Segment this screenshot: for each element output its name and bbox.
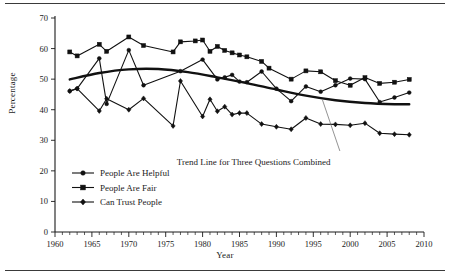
data-point-marker [127, 35, 131, 39]
data-point-marker [230, 73, 234, 77]
y-tick-label: 40 [40, 105, 49, 115]
data-point-marker [127, 48, 131, 52]
legend-item-2[interactable]: People Are Fair [72, 183, 157, 193]
data-point-marker [407, 91, 411, 95]
y-tick-label: 20 [40, 166, 49, 176]
legend-item-label: People Are Fair [100, 183, 157, 193]
x-axis-title: Year [0, 250, 450, 260]
x-tick-label: 1965 [83, 239, 100, 249]
trend-annotation-label: Trend Line for Three Questions Combined [177, 157, 331, 167]
data-point-marker [319, 90, 323, 94]
y-tick-label: 70 [40, 13, 49, 23]
x-tick-label: 1960 [47, 239, 64, 249]
data-point-marker [393, 96, 397, 100]
x-tick-label: 1995 [305, 239, 322, 249]
legend-item-label: Can Trust People [100, 197, 162, 207]
data-point-marker [304, 85, 308, 89]
x-tick-label: 1975 [157, 239, 174, 249]
data-point-marker [105, 49, 109, 53]
y-tick-label: 10 [40, 196, 49, 206]
data-point-marker [81, 171, 86, 176]
trend-line [70, 69, 409, 105]
trend-line-group [70, 69, 409, 105]
x-tick-label: 1985 [231, 239, 248, 249]
y-tick-label: 60 [40, 44, 49, 54]
x-tick-label: 1980 [194, 239, 211, 249]
series-line [70, 37, 409, 85]
data-point-marker [274, 124, 278, 129]
data-point-marker [333, 79, 337, 83]
data-point-marker [260, 59, 264, 63]
data-point-marker [215, 44, 219, 48]
data-point-marker [105, 102, 109, 106]
legend-item-label: People Are Helpful [100, 168, 170, 178]
figure-container: 010203040506070 196019651970197519801985… [0, 0, 450, 278]
data-point-marker [304, 69, 308, 73]
x-axis: 1960196519701975198019851990199520002005… [47, 232, 433, 249]
y-axis-title: Percentage [7, 58, 17, 128]
data-point-marker [289, 99, 293, 103]
data-point-marker [334, 83, 338, 87]
legend-item-1[interactable]: People Are Helpful [72, 168, 170, 178]
data-point-marker [81, 185, 86, 190]
series-line [70, 81, 409, 135]
data-series-group [68, 35, 412, 137]
trend-annotation-group: Trend Line for Three Questions Combined [177, 99, 340, 167]
data-point-marker [289, 77, 293, 81]
y-tick-label: 30 [40, 135, 49, 145]
data-point-marker [348, 77, 352, 81]
data-point-marker [68, 50, 72, 54]
data-point-marker [237, 111, 241, 116]
data-point-marker [378, 131, 382, 136]
data-point-marker [378, 81, 382, 85]
data-point-marker [407, 132, 411, 137]
data-point-marker [75, 54, 79, 58]
data-point-marker [201, 38, 205, 42]
data-point-marker [348, 123, 352, 128]
data-point-marker [348, 83, 352, 87]
data-point-marker [201, 58, 205, 62]
data-point-marker [245, 55, 249, 59]
data-point-marker [319, 70, 323, 74]
data-point-marker [363, 121, 367, 126]
legend-item-3[interactable]: Can Trust People [72, 197, 162, 207]
x-tick-label: 2005 [379, 239, 396, 249]
data-point-marker [363, 76, 367, 80]
data-point-marker [230, 51, 234, 55]
data-point-marker [392, 132, 396, 137]
data-point-marker [193, 39, 197, 43]
x-tick-label: 1970 [120, 239, 137, 249]
data-point-marker [319, 122, 323, 127]
data-point-marker [407, 77, 411, 81]
data-point-marker [333, 122, 337, 127]
data-point-marker [178, 40, 182, 44]
data-point-marker [80, 199, 85, 205]
y-tick-label: 50 [40, 74, 49, 84]
series-line [70, 50, 409, 104]
data-point-marker [267, 66, 271, 70]
line-chart: 010203040506070 196019651970197519801985… [0, 0, 450, 278]
data-point-marker [238, 53, 242, 57]
x-tick-label: 2010 [416, 239, 433, 249]
data-point-marker [142, 83, 146, 87]
x-tick-label: 2000 [342, 239, 359, 249]
x-tick-label: 1990 [268, 239, 285, 249]
data-point-marker [260, 70, 264, 74]
data-point-marker [171, 50, 175, 54]
y-axis: 010203040506070 [40, 13, 56, 237]
series-3 [68, 78, 412, 137]
data-point-marker [97, 56, 101, 60]
data-point-marker [392, 80, 396, 84]
chart-legend: People Are HelpfulPeople Are FairCan Tru… [72, 168, 170, 207]
data-point-marker [142, 44, 146, 48]
data-point-marker [97, 42, 101, 46]
data-point-marker [223, 48, 227, 52]
data-point-marker [208, 49, 212, 53]
y-tick-label: 0 [44, 227, 48, 237]
data-point-marker [68, 89, 72, 94]
